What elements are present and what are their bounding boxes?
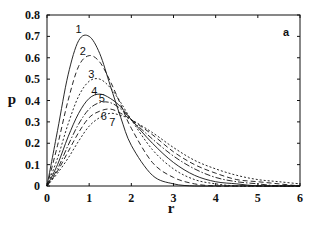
x-tick-label: 4 — [213, 191, 219, 205]
curve-3 — [47, 79, 300, 187]
y-tick-label: 0.2 — [25, 136, 40, 150]
y-axis-ticks: 00.10.20.30.40.50.60.70.8 — [25, 8, 300, 193]
curve-label-1: 1 — [76, 23, 82, 35]
plot-frame — [47, 15, 300, 186]
curve-5 — [47, 102, 300, 186]
y-tick-label: 0.6 — [25, 51, 40, 65]
curve-label-2: 2 — [80, 45, 86, 57]
x-tick-label: 2 — [128, 191, 134, 205]
x-axis-label: r — [168, 200, 175, 216]
x-axis-ticks: 0123456 — [44, 15, 303, 205]
curve-label-3: 3 — [88, 68, 94, 80]
curve-label-5: 5 — [99, 92, 105, 104]
y-tick-label: 0 — [34, 179, 40, 193]
radial-distribution-chart: 0123456 00.10.20.30.40.50.60.70.8 123456… — [0, 0, 314, 227]
curve-2 — [47, 56, 300, 187]
y-tick-label: 0.3 — [25, 115, 40, 129]
curve-label-7: 7 — [109, 116, 115, 128]
y-tick-label: 0.7 — [25, 29, 40, 43]
y-tick-label: 0.1 — [25, 158, 40, 172]
curve-7 — [47, 113, 300, 186]
x-tick-label: 0 — [44, 191, 50, 205]
x-tick-label: 1 — [86, 191, 92, 205]
curve-6 — [47, 109, 300, 186]
curves — [47, 35, 300, 186]
curve-label-4: 4 — [91, 85, 97, 97]
curve-label-6: 6 — [101, 110, 107, 122]
y-tick-label: 0.8 — [25, 8, 40, 22]
x-tick-label: 5 — [255, 191, 261, 205]
panel-label: a — [283, 26, 290, 38]
y-tick-label: 0.4 — [25, 94, 40, 108]
y-axis-label: p — [8, 91, 16, 107]
curve-labels: 1234567 — [76, 23, 116, 128]
y-tick-label: 0.5 — [25, 72, 40, 86]
curve-1 — [47, 35, 300, 186]
plot-border — [47, 15, 300, 186]
curve-4 — [47, 94, 300, 186]
x-tick-label: 6 — [297, 191, 303, 205]
